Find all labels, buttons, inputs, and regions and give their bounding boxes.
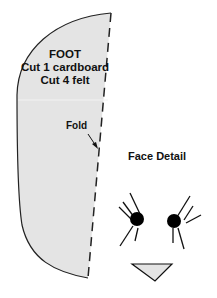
face-detail-title: Face Detail — [128, 150, 186, 163]
instruction-cardboard: Cut 1 cardboard — [20, 61, 110, 74]
instruction-felt: Cut 4 felt — [20, 74, 110, 87]
fold-label: Fold — [66, 120, 87, 132]
left-eye-icon — [130, 212, 144, 226]
right-eye-group — [167, 196, 201, 249]
foot-pattern-label: FOOT Cut 1 cardboard Cut 4 felt — [20, 48, 110, 88]
piece-name: FOOT — [20, 48, 110, 61]
nose-triangle-icon — [132, 264, 172, 281]
pattern-drawing — [0, 0, 217, 298]
left-eye-group — [119, 193, 144, 246]
right-eye-icon — [167, 214, 181, 228]
